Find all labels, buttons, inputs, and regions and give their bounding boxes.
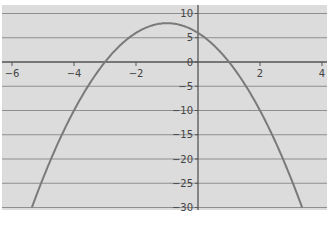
y-tick-label: −25 — [172, 178, 193, 189]
x-tick-label: 4 — [319, 68, 325, 79]
x-tick-label: −4 — [67, 68, 82, 79]
y-tick-label: 10 — [180, 8, 193, 19]
x-tick-label: 2 — [257, 68, 263, 79]
y-tick-label: −10 — [172, 105, 193, 116]
y-tick-label: −30 — [172, 202, 193, 213]
y-tick-label: 5 — [187, 32, 193, 43]
quadratic-chart: 1050−5−10−15−20−25−30−6−4−224 — [0, 0, 329, 225]
y-tick-label: 0 — [187, 57, 193, 68]
y-tick-label: −20 — [172, 154, 193, 165]
y-tick-label: −15 — [172, 129, 193, 140]
x-tick-label: −2 — [129, 68, 144, 79]
x-tick-label: −6 — [5, 68, 20, 79]
plot-background — [2, 5, 327, 210]
y-tick-label: −5 — [178, 81, 193, 92]
